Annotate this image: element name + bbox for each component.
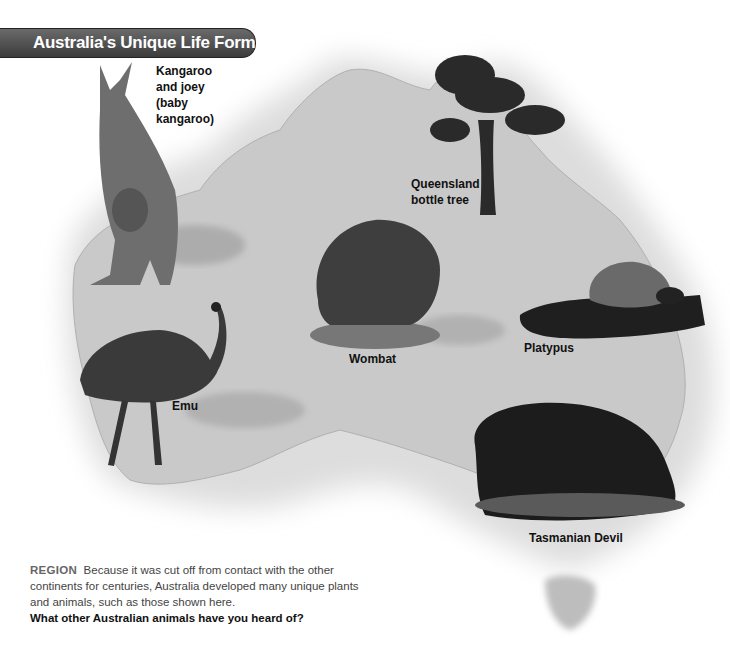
tasmanian-devil-label: Tasmanian Devil	[529, 530, 623, 546]
kangaroo-label-line: (baby	[156, 95, 214, 111]
bottle-tree-label-line: Queensland	[411, 176, 480, 192]
kangaroo-label: Kangaroo and joey (baby kangaroo)	[156, 63, 214, 127]
kangaroo-label-line: and joey	[156, 79, 214, 95]
emu-label: Emu	[172, 398, 198, 414]
title-banner: Australia's Unique Life Forms	[0, 28, 256, 58]
caption-text: Because it was cut off from contact with…	[30, 564, 359, 608]
bottle-tree-label: Queensland bottle tree	[411, 176, 480, 208]
australia-map	[0, 0, 730, 647]
caption-question: What other Australian animals have you h…	[30, 610, 360, 626]
platypus-label: Platypus	[524, 340, 574, 356]
kangaroo-label-line: Kangaroo	[156, 63, 214, 79]
caption-keyword: REGION	[30, 564, 77, 576]
bottle-tree-label-line: bottle tree	[411, 192, 480, 208]
wombat-label: Wombat	[349, 351, 396, 367]
caption: REGION Because it was cut off from conta…	[30, 562, 360, 626]
page-title: Australia's Unique Life Forms	[33, 33, 265, 53]
kangaroo-label-line: kangaroo)	[156, 111, 214, 127]
tasmania-shape	[545, 575, 595, 630]
